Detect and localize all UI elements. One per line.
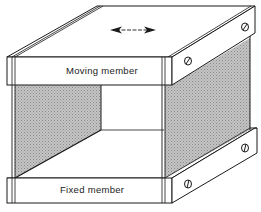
flexure-panel-left — [15, 85, 164, 178]
screw-icon — [185, 57, 192, 65]
fixed-member-label: Fixed member — [60, 184, 124, 195]
left-post — [12, 85, 15, 178]
moving-member-label: Moving member — [66, 65, 138, 76]
right-post — [162, 85, 165, 178]
screw-icon — [242, 144, 249, 152]
screw-icon — [242, 23, 249, 31]
screw-icon — [185, 180, 192, 188]
flexure-diagram — [0, 0, 261, 212]
